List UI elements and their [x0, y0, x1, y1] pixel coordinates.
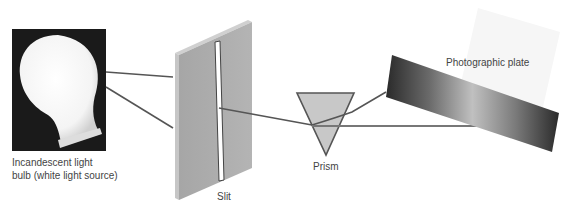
bulb-label-line2: bulb (white light source): [12, 169, 118, 182]
ray-bulb-to-slit-upper: [106, 72, 173, 77]
slit-board: [175, 20, 252, 200]
incandescent-bulb: [12, 29, 106, 151]
diagram-canvas: [0, 0, 572, 218]
slit-label: Slit: [217, 190, 231, 203]
ray-bulb-to-slit-lower: [106, 87, 173, 128]
bulb-label-line1: Incandescent light: [12, 156, 118, 169]
bulb-label: Incandescent light bulb (white light sou…: [12, 156, 118, 182]
slit-board-side: [175, 53, 179, 200]
spectroscope-diagram: Incandescent light bulb (white light sou…: [0, 0, 572, 218]
plate-label: Photographic plate: [446, 56, 529, 69]
prism-label: Prism: [313, 160, 339, 173]
